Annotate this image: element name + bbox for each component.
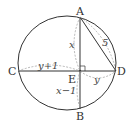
label-ed-length: y [93, 74, 100, 85]
label-ae-length: x [69, 39, 75, 50]
circle-chord-diagram: A B C D E x x−1 y+1 y 5 [0, 0, 135, 134]
label-ce-length: y+1 [37, 60, 58, 71]
label-a: A [75, 5, 85, 18]
label-c: C [8, 65, 16, 78]
label-d: D [117, 65, 126, 78]
arc-ae [74, 17, 80, 71]
label-eb-length: x−1 [56, 85, 76, 96]
label-b: B [76, 110, 84, 123]
label-ad-length: 5 [102, 37, 108, 48]
segment-ad [80, 17, 116, 71]
